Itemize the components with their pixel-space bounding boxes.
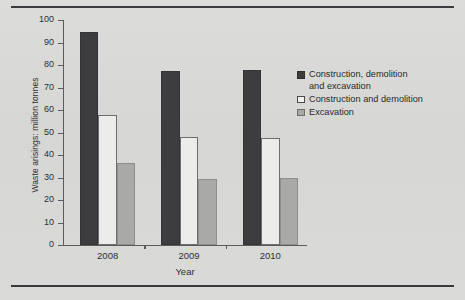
bar-2008-series-1 [80, 32, 99, 245]
y-tick-mark [58, 245, 64, 246]
bar-2008-series-3 [117, 163, 136, 245]
x-tick-mark [226, 245, 227, 249]
bars-layer [63, 20, 307, 245]
x-axis-title: Year [63, 266, 307, 277]
bar-2009-series-2 [180, 137, 199, 245]
x-tick-mark [144, 245, 145, 249]
legend-item-label: Construction, demolition and excavation [309, 69, 408, 92]
bar-2010-series-2 [261, 138, 280, 245]
legend-swatch-icon [297, 71, 305, 79]
y-tick-label: 50 [28, 127, 54, 137]
y-tick-label: 90 [28, 37, 54, 47]
y-tick-label: 10 [28, 217, 54, 227]
y-tick-label: 60 [28, 104, 54, 114]
bar-2008-series-2 [98, 115, 117, 246]
y-tick-label: 30 [28, 172, 54, 182]
bar-2009-series-1 [161, 71, 180, 245]
legend-item-label: Excavation [309, 107, 354, 119]
chart-legend: Construction, demolition and excavationC… [297, 69, 457, 120]
legend-swatch-icon [297, 96, 305, 104]
figure-container: Waste arisings: million tonnes 010203040… [0, 0, 465, 300]
legend-item-2: Construction and demolition [297, 94, 457, 106]
y-tick-label: 20 [28, 194, 54, 204]
y-tick-label: 40 [28, 149, 54, 159]
y-tick-label: 80 [28, 59, 54, 69]
x-tick-label-2008: 2008 [78, 250, 138, 261]
bar-2009-series-3 [198, 179, 217, 245]
x-tick-label-2010: 2010 [240, 250, 300, 261]
y-tick-label: 0 [28, 239, 54, 249]
chart-plot-area: Waste arisings: million tonnes 010203040… [0, 0, 465, 300]
legend-swatch-icon [297, 109, 305, 117]
y-tick-label: 100 [28, 14, 54, 24]
bar-2010-series-1 [243, 70, 262, 245]
legend-item-3: Excavation [297, 107, 457, 119]
legend-item-1: Construction, demolition and excavation [297, 69, 457, 92]
legend-item-label: Construction and demolition [309, 94, 423, 106]
x-tick-label-2009: 2009 [159, 250, 219, 261]
bar-2010-series-3 [280, 178, 299, 246]
y-tick-label: 70 [28, 82, 54, 92]
